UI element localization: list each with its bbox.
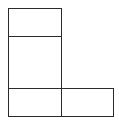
cell-bottom-left (8, 88, 62, 117)
cell-bottom-right (61, 88, 114, 117)
diagram-canvas (0, 0, 119, 124)
cell-top (8, 8, 62, 37)
cell-middle (8, 36, 62, 89)
